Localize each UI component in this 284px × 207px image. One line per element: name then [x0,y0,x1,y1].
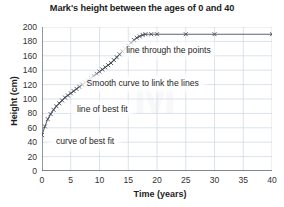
chart-annotation: curve of best fit [52,135,118,147]
y-tick-label: 200 [23,22,37,32]
y-tick-label: 40 [27,137,37,147]
x-axis-label: Time (years) [40,189,280,199]
y-tick-label: 100 [23,94,37,104]
x-tick-label: 30 [210,175,220,185]
y-tick-label: 80 [27,108,37,118]
y-tick-label: 20 [27,152,37,162]
x-tick-label: 35 [238,175,248,185]
x-tick-label: 0 [40,175,45,185]
x-tick-label: 15 [123,175,133,185]
y-tick-label: 160 [23,51,37,61]
chart-title: Mark's height between the ages of 0 and … [0,3,284,13]
y-tick-label: 120 [23,80,37,90]
chart-annotation: line through the points [122,44,215,56]
y-tick-label: 0 [32,166,37,176]
plot-area: 020406080100120140160180200 051015202530… [42,27,272,171]
y-tick-label: 180 [23,36,37,46]
y-tick-label: 140 [23,65,37,75]
x-tick-label: 25 [181,175,191,185]
chart-annotation: line of best fit [73,103,132,115]
x-tick-label: 10 [95,175,105,185]
chart-annotation: Smooth curve to link the lines [82,77,202,89]
x-tick-label: 20 [152,175,162,185]
x-tick-label: 40 [267,175,277,185]
y-axis-label: Height (cm) [9,58,19,144]
chart-container: M Mark's height between the ages of 0 an… [0,0,284,207]
y-tick-label: 60 [27,123,37,133]
x-tick-label: 5 [68,175,73,185]
